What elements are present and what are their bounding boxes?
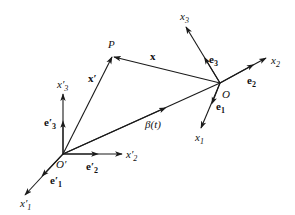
- label-e2-prime: e′2: [86, 160, 98, 175]
- label-x2: x2: [270, 54, 280, 69]
- label-beta: β(t): [144, 118, 161, 131]
- label-x1: x1: [194, 131, 204, 146]
- label-x-prime-vector: x′: [88, 72, 97, 84]
- label-e1: e1: [216, 100, 225, 115]
- label-x3: x3: [179, 10, 189, 25]
- label-x3-prime: x′3: [56, 78, 68, 93]
- label-e3: e3: [209, 53, 218, 68]
- label-P: P: [107, 38, 115, 50]
- label-O: O: [222, 88, 230, 100]
- label-O-prime: O′: [56, 158, 67, 170]
- label-x-vector: x: [150, 50, 156, 62]
- label-e3-prime: e′3: [44, 116, 56, 131]
- fixed-frame: [25, 94, 122, 195]
- label-e1-prime: e′1: [50, 174, 62, 189]
- label-x2-prime: x′2: [125, 148, 137, 163]
- coordinate-frames-diagram: P O O′ x x′ β(t) x3 x2 x1 e3 e2 e1 x′3 e…: [0, 0, 295, 215]
- beta-arrow-head: [63, 109, 163, 154]
- vector-x: [114, 57, 220, 83]
- label-x1-prime: x′1: [19, 197, 31, 212]
- label-e2: e2: [247, 74, 256, 89]
